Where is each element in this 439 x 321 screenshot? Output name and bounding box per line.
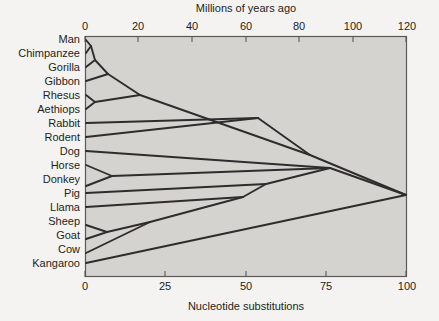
taxon-label-rodent: Rodent xyxy=(45,131,80,143)
taxon-label-pig: Pig xyxy=(64,187,80,199)
taxon-label-horse: Horse xyxy=(51,159,80,171)
tree-svg: Millions of years ago 0 20 40 60 80 100 … xyxy=(0,0,439,321)
bottom-tick-50: 50 xyxy=(240,280,252,292)
bottom-tick-0: 0 xyxy=(82,280,88,292)
top-tick-100: 100 xyxy=(344,20,362,32)
taxon-label-gibbon: Gibbon xyxy=(45,75,80,87)
bottom-tick-75: 75 xyxy=(320,280,332,292)
taxon-label-donkey: Donkey xyxy=(43,173,81,185)
phylogenetic-tree-figure: Millions of years ago 0 20 40 60 80 100 … xyxy=(0,0,439,321)
taxon-label-dog: Dog xyxy=(60,145,80,157)
taxon-label-rhesus: Rhesus xyxy=(43,89,81,101)
top-axis-title: Millions of years ago xyxy=(196,2,296,14)
top-tick-60: 60 xyxy=(240,20,252,32)
top-tick-80: 80 xyxy=(293,20,305,32)
bottom-tick-25: 25 xyxy=(159,280,171,292)
top-tick-40: 40 xyxy=(186,20,198,32)
taxon-label-kangaroo: Kangaroo xyxy=(32,257,80,269)
plot-area xyxy=(86,37,407,277)
taxon-label-rabbit: Rabbit xyxy=(48,117,80,129)
taxon-label-gorilla: Gorilla xyxy=(48,61,81,73)
taxon-label-llama: Llama xyxy=(50,201,81,213)
bottom-axis-title: Nucleotide substitutions xyxy=(188,300,305,312)
top-tick-120: 120 xyxy=(398,20,416,32)
taxon-label-aethiops: Aethiops xyxy=(37,103,80,115)
taxon-label-man: Man xyxy=(59,33,80,45)
taxon-label-cow: Cow xyxy=(58,243,80,255)
top-tick-0: 0 xyxy=(82,20,88,32)
taxon-label-sheep: Sheep xyxy=(48,215,80,227)
taxon-label-chimpanzee: Chimpanzee xyxy=(18,47,80,59)
top-tick-20: 20 xyxy=(132,20,144,32)
taxon-label-goat: Goat xyxy=(56,229,80,241)
bottom-tick-100: 100 xyxy=(398,280,416,292)
